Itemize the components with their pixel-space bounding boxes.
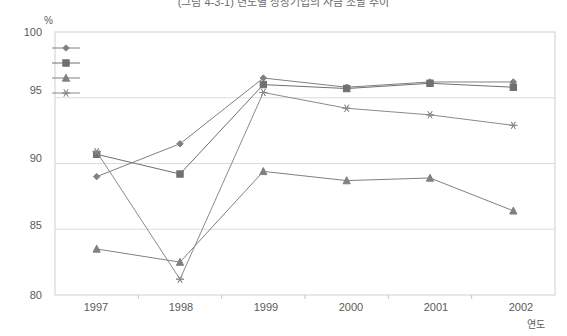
data-point-총자산-1999 bbox=[260, 81, 266, 87]
data-point-총자산-2002 bbox=[510, 84, 516, 90]
x-axis-tick-marks bbox=[138, 295, 471, 299]
data-point-총자산-1998 bbox=[177, 171, 183, 177]
data-point-총자산-2000 bbox=[343, 85, 349, 91]
chart-container: (그림 4-3-1) 년도별 상장기업의 자금 조달 추이 % 연도 100 9… bbox=[0, 0, 567, 336]
legend-glyph-총자산 bbox=[63, 60, 69, 66]
plot-area bbox=[0, 0, 567, 336]
data-point-총자산-2001 bbox=[427, 80, 433, 86]
